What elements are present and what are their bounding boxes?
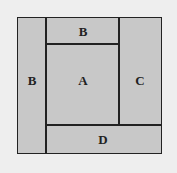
region-top-label: B <box>79 24 88 40</box>
region-right-label: C <box>135 73 144 89</box>
region-bottom-label: D <box>98 132 107 148</box>
divider-top-horizontal <box>46 43 119 45</box>
divider-bottom-horizontal <box>46 124 162 126</box>
divider-right-vertical <box>118 17 120 126</box>
divider-left-vertical <box>45 17 47 154</box>
region-left-label: B <box>28 73 37 89</box>
region-center-label: A <box>78 73 87 89</box>
